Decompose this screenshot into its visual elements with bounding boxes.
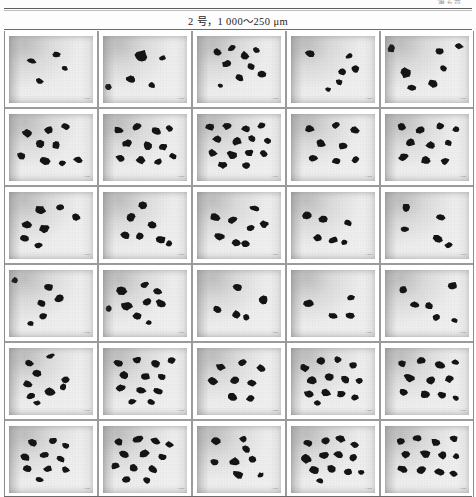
- particle-blob: [226, 44, 237, 53]
- particle-blob: [233, 71, 246, 83]
- particle-blob: [245, 62, 256, 72]
- micrograph-image: 1 mm: [291, 114, 375, 181]
- particle-blob: [131, 355, 143, 365]
- particle-blob: [450, 318, 458, 325]
- particle-blob: [208, 457, 220, 466]
- micrograph-image: 1 mm: [291, 270, 375, 337]
- particle-blob: [349, 440, 359, 448]
- micrograph-image: 1 mm: [385, 348, 469, 415]
- particle-blob: [34, 241, 44, 249]
- micrograph-vignette: [103, 192, 187, 259]
- micrograph-image: 1 mm: [9, 114, 93, 181]
- particle-blob: [151, 286, 164, 297]
- micrograph-cell: 1 mm: [381, 109, 473, 185]
- micrograph-vignette: [197, 426, 281, 493]
- particle-blob: [25, 57, 37, 66]
- particle-blob: [60, 441, 71, 451]
- particle-blob: [50, 139, 62, 150]
- micrograph-image: 1 mm: [385, 426, 469, 493]
- particle-blob: [146, 398, 156, 406]
- particle-blob: [406, 83, 417, 92]
- particle-blob: [324, 87, 331, 93]
- particle-blob: [256, 294, 270, 307]
- particle-blob: [19, 452, 32, 462]
- particle-blob: [312, 399, 321, 407]
- particle-blob: [112, 358, 124, 368]
- scale-bar-label: 1 mm: [459, 176, 466, 179]
- particle-blob: [58, 382, 67, 392]
- particle-blob: [242, 314, 251, 322]
- particle-blob: [396, 464, 409, 475]
- scale-bar-label: 1 mm: [83, 98, 90, 101]
- caption-rule: [4, 29, 472, 30]
- particle-blob: [338, 68, 348, 77]
- micrograph-image: 1 mm: [197, 192, 281, 259]
- particle-blob: [302, 389, 314, 399]
- particle-blob: [230, 136, 243, 147]
- particle-blob: [240, 161, 251, 170]
- particle-blob: [317, 214, 329, 224]
- scale-bar-label: 1 mm: [365, 332, 372, 335]
- scale-bar-label: 1 mm: [365, 254, 372, 257]
- particle-blob: [452, 395, 460, 402]
- micrograph-image: 1 mm: [9, 270, 93, 337]
- scale-bar-label: 1 mm: [83, 332, 90, 335]
- particle-blob: [298, 452, 314, 466]
- particle-blob: [56, 203, 65, 211]
- particle-blob: [126, 397, 137, 406]
- particle-blob: [402, 372, 417, 385]
- micrograph-vignette: [103, 36, 187, 103]
- particle-blob: [452, 452, 462, 460]
- particle-blob: [124, 73, 138, 85]
- particle-blob: [114, 383, 127, 394]
- particle-blob: [34, 476, 45, 482]
- particle-blob: [302, 298, 315, 309]
- micrograph-cell: 1 mm: [99, 421, 191, 497]
- particle-blob: [414, 464, 428, 476]
- micrograph-vignette: [291, 192, 375, 259]
- particle-blob: [149, 435, 162, 446]
- particle-blob: [134, 385, 147, 395]
- particle-blob: [210, 436, 223, 447]
- micrograph-image: 1 mm: [385, 36, 469, 103]
- particle-blob: [165, 124, 174, 132]
- micrograph-cell: 1 mm: [99, 31, 191, 107]
- micrograph-image: 1 mm: [385, 192, 469, 259]
- particle-blob: [423, 301, 434, 310]
- particle-blob: [141, 476, 151, 484]
- particle-blob: [322, 371, 337, 383]
- particle-blob: [385, 43, 396, 55]
- particle-blob: [448, 469, 459, 478]
- micrograph-image: 1 mm: [291, 192, 375, 259]
- scale-bar-label: 1 mm: [177, 98, 184, 101]
- micrograph-image: 1 mm: [9, 426, 93, 493]
- micrograph-image: 1 mm: [197, 36, 281, 103]
- particle-blob: [434, 121, 446, 132]
- micrograph-image: 1 mm: [291, 426, 375, 493]
- particle-blob: [436, 450, 449, 461]
- particle-blob: [114, 283, 129, 296]
- particle-blob: [356, 468, 365, 476]
- particle-blob: [429, 436, 443, 448]
- particle-blob: [305, 375, 318, 386]
- scale-bar-label: 1 mm: [459, 332, 466, 335]
- micrograph-image: 1 mm: [291, 348, 375, 415]
- micrograph-image: 1 mm: [197, 270, 281, 337]
- particle-blob: [27, 321, 35, 327]
- micrograph-vignette: [103, 348, 187, 415]
- micrograph-cell: 1 mm: [5, 343, 97, 419]
- particle-blob: [299, 363, 311, 373]
- particle-blob: [216, 160, 229, 171]
- micrograph-vignette: [9, 270, 93, 337]
- micrograph-cell: 1 mm: [193, 421, 285, 497]
- micrograph-vignette: [291, 348, 375, 415]
- particle-blob: [431, 313, 442, 322]
- particle-blob: [103, 303, 113, 313]
- particle-blob: [33, 204, 47, 216]
- micrograph-image: 1 mm: [103, 36, 187, 103]
- particle-blob: [450, 358, 459, 366]
- particle-blob: [60, 64, 70, 73]
- particle-blob: [119, 229, 132, 241]
- particle-blob: [400, 449, 413, 459]
- particle-blob: [131, 310, 143, 320]
